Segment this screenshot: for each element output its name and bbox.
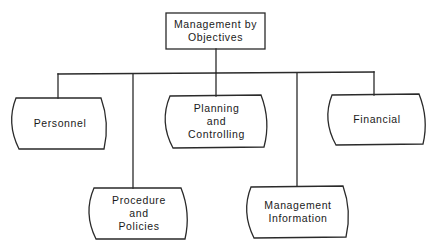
planning-line-1: Planning bbox=[194, 102, 240, 115]
mgmt-info-line-1: Management bbox=[264, 199, 331, 212]
node-personnel: Personnel bbox=[14, 98, 106, 149]
node-mgmt-info: Management Information bbox=[248, 186, 348, 238]
personnel-line-1: Personnel bbox=[34, 117, 87, 130]
procedure-line-3: Policies bbox=[119, 220, 160, 233]
procedure-line-1: Procedure bbox=[112, 194, 166, 207]
node-financial: Financial bbox=[329, 94, 425, 145]
planning-line-2: and bbox=[207, 115, 226, 128]
planning-line-3: Controlling bbox=[188, 128, 245, 141]
root-line-1: Management by bbox=[174, 18, 257, 31]
root-line-2: Objectives bbox=[188, 31, 243, 44]
mgmt-info-line-2: Information bbox=[268, 212, 327, 225]
node-procedure: Procedure and Policies bbox=[91, 188, 187, 239]
node-planning: Planning and Controlling bbox=[167, 95, 266, 147]
root-node-label: Management by Objectives bbox=[166, 13, 265, 49]
procedure-line-2: and bbox=[129, 207, 148, 220]
financial-line-1: Financial bbox=[353, 113, 400, 126]
